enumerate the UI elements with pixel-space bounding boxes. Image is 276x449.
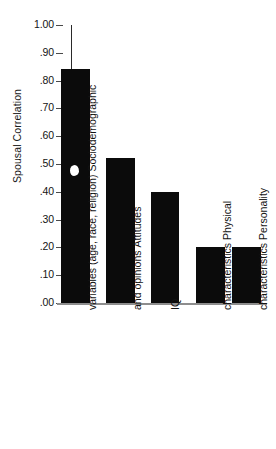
bar (151, 192, 179, 303)
x-axis-category-line: characteristics (257, 241, 270, 310)
x-axis-category-line: IQ (169, 297, 182, 310)
x-axis-category-line: characteristics (221, 241, 234, 310)
x-axis-category-line: and opinions (131, 248, 144, 310)
x-axis-category-line: Attitudes (131, 205, 144, 248)
plot-area: variables (age, race, religion)Sociodemo… (0, 0, 276, 449)
x-axis-category-line: Sociodemographic (86, 83, 99, 172)
x-axis-category-line: Personality (257, 186, 270, 240)
x-axis-category-line: variables (age, race, religion) (86, 173, 99, 310)
x-axis-category-line: Physical (221, 199, 234, 240)
bar-chart-figure: Spousal Correlation 1.00.90.80.70.60.50.… (0, 0, 276, 449)
white-speck-artifact-icon (70, 165, 79, 176)
